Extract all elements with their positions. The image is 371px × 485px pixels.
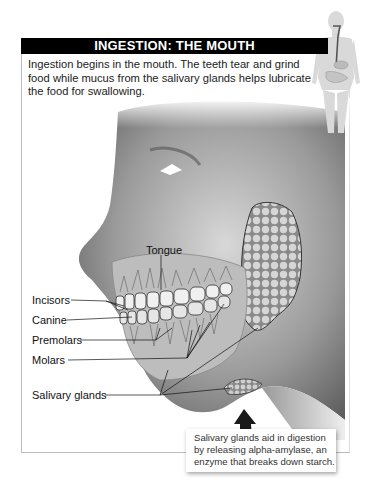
callout-line-2: by releasing alpha-amylase, an — [194, 444, 336, 456]
label-premolars: Premolars — [32, 334, 82, 346]
label-salivary-glands: Salivary glands — [32, 389, 107, 401]
section-header: INGESTION: THE MOUTH — [21, 38, 328, 54]
label-molars: Molars — [32, 354, 65, 366]
description-text: Ingestion begins in the mouth. The teeth… — [28, 58, 313, 99]
callout-line-3: enzyme that breaks down starch. — [194, 456, 336, 468]
label-canine: Canine — [32, 314, 67, 326]
label-incisors: Incisors — [32, 294, 70, 306]
callout-line-1: Salivary glands aid in digestion — [194, 432, 336, 444]
salivary-callout-box: Salivary glands aid in digestion by rele… — [186, 429, 336, 472]
label-tongue: Tongue — [146, 244, 182, 256]
